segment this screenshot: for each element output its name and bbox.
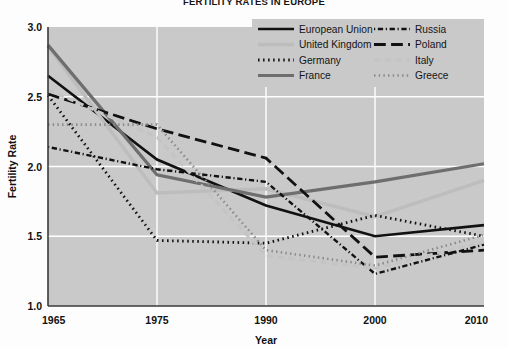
legend-label-france[interactable]: France	[299, 70, 331, 81]
x-axis-title: Year	[255, 334, 277, 346]
y-tick-label: 1.5	[27, 230, 42, 242]
x-tick-label: 1990	[254, 314, 278, 326]
y-tick-label: 2.0	[27, 161, 42, 173]
legend-label-european-union[interactable]: European Union	[299, 24, 373, 35]
x-tick-label: 1965	[42, 314, 66, 326]
y-axis-title: Fertility Rate	[6, 135, 18, 199]
legend-label-russia[interactable]: Russia	[415, 24, 446, 35]
x-tick-label: 1975	[145, 314, 169, 326]
legend-label-united-kingdom[interactable]: United Kingdom	[299, 39, 372, 50]
x-tick-label: 2010	[465, 314, 489, 326]
legend-label-greece[interactable]: Greece	[415, 70, 449, 81]
legend-label-poland[interactable]: Poland	[415, 39, 447, 50]
y-tick-label: 2.5	[27, 91, 42, 103]
y-tick-label: 1.0	[27, 300, 42, 312]
fertility-rates-line-chart: 1.01.52.02.53.019651975199020002010YearF…	[0, 0, 508, 347]
chart-screenshot: FERTILITY RATES IN EUROPE 1.01.52.02.53.…	[0, 0, 508, 347]
legend-label-italy[interactable]: Italy	[415, 55, 435, 66]
x-tick-label: 2000	[363, 314, 387, 326]
y-tick-label: 3.0	[27, 21, 42, 33]
legend-label-germany[interactable]: Germany	[299, 55, 342, 66]
